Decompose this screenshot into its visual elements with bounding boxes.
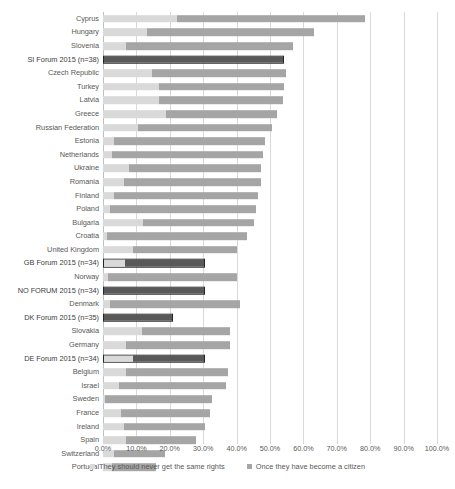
stacked-bar[interactable] xyxy=(103,219,254,227)
bar-segment-never-same-rights[interactable] xyxy=(103,382,119,390)
bar-segment-once-citizen[interactable] xyxy=(124,178,261,186)
stacked-bar[interactable] xyxy=(103,286,205,295)
stacked-bar[interactable] xyxy=(103,205,256,213)
row-label: Slovenia xyxy=(0,42,103,50)
legend-item[interactable]: Once they have become a citizen xyxy=(247,462,365,471)
stacked-bar[interactable] xyxy=(103,42,293,50)
bar-segment-once-citizen[interactable] xyxy=(177,15,365,23)
stacked-bar[interactable] xyxy=(103,233,247,241)
bar-segment-never-same-rights[interactable] xyxy=(103,219,143,227)
bar-segment-never-same-rights[interactable] xyxy=(103,15,177,23)
bar-segment-never-same-rights[interactable] xyxy=(103,151,112,159)
stacked-bar[interactable] xyxy=(103,246,237,254)
chart-row: Turkey xyxy=(0,80,455,94)
bar-segment-never-same-rights[interactable] xyxy=(103,124,138,132)
bar-segment-once-citizen[interactable] xyxy=(114,192,258,200)
bar-segment-never-same-rights[interactable] xyxy=(104,355,133,362)
row-label: Spain xyxy=(0,436,103,444)
bar-segment-never-same-rights[interactable] xyxy=(103,368,126,376)
bar-segment-never-same-rights[interactable] xyxy=(103,69,152,77)
stacked-bar[interactable] xyxy=(103,423,205,431)
stacked-bar[interactable] xyxy=(103,137,265,145)
bar-segment-never-same-rights[interactable] xyxy=(103,436,126,444)
bar-segment-once-citizen[interactable] xyxy=(126,368,228,376)
bar-segment-never-same-rights[interactable] xyxy=(103,328,142,336)
stacked-bar[interactable] xyxy=(103,341,230,349)
stacked-bar[interactable] xyxy=(103,409,210,417)
bar-segment-never-same-rights[interactable] xyxy=(103,300,110,308)
stacked-bar[interactable] xyxy=(103,382,226,390)
bar-segment-once-citizen[interactable] xyxy=(126,42,293,50)
bar-segment-never-same-rights[interactable] xyxy=(103,29,147,37)
bar-segment-once-citizen[interactable] xyxy=(121,409,211,417)
bar-segment-once-citizen[interactable] xyxy=(104,56,283,63)
bar-segment-once-citizen[interactable] xyxy=(142,328,230,336)
stacked-bar[interactable] xyxy=(103,178,261,186)
bar-segment-once-citizen[interactable] xyxy=(129,165,261,173)
bar-segment-once-citizen[interactable] xyxy=(152,69,286,77)
stacked-bar[interactable] xyxy=(103,124,272,132)
bar-segment-once-citizen[interactable] xyxy=(110,205,256,213)
stacked-bar[interactable] xyxy=(103,259,205,268)
bar-segment-once-citizen[interactable] xyxy=(138,124,272,132)
stacked-bar[interactable] xyxy=(103,396,212,404)
stacked-bar[interactable] xyxy=(103,83,284,91)
bar-segment-never-same-rights[interactable] xyxy=(103,246,133,254)
bar-segment-never-same-rights[interactable] xyxy=(103,110,166,118)
bar-segment-once-citizen[interactable] xyxy=(133,355,204,362)
bar-segment-once-citizen[interactable] xyxy=(126,341,230,349)
stacked-bar[interactable] xyxy=(103,110,277,118)
bar-segment-once-citizen[interactable] xyxy=(110,300,240,308)
bar-segment-once-citizen[interactable] xyxy=(107,233,248,241)
bar-segment-once-citizen[interactable] xyxy=(126,436,196,444)
bar-segment-once-citizen[interactable] xyxy=(114,137,265,145)
bar-segment-once-citizen[interactable] xyxy=(124,423,205,431)
bar-segment-once-citizen[interactable] xyxy=(159,97,282,105)
bar-segment-never-same-rights[interactable] xyxy=(103,137,114,145)
bar-segment-once-citizen[interactable] xyxy=(104,287,204,294)
stacked-bar[interactable] xyxy=(103,29,314,37)
bar-segment-once-citizen[interactable] xyxy=(105,396,212,404)
bar-segment-never-same-rights[interactable] xyxy=(103,341,126,349)
stacked-bar[interactable] xyxy=(103,436,196,444)
bar-segment-once-citizen[interactable] xyxy=(112,151,263,159)
bar-segment-once-citizen[interactable] xyxy=(108,273,236,281)
bar-segment-never-same-rights[interactable] xyxy=(103,192,114,200)
row-label: Poland xyxy=(0,205,103,213)
bar-segment-never-same-rights[interactable] xyxy=(104,260,125,267)
stacked-bar[interactable] xyxy=(103,165,261,173)
stacked-bar[interactable] xyxy=(103,273,237,281)
legend-swatch-icon xyxy=(90,464,95,469)
row-label: DE Forum 2015 (n=34) xyxy=(0,355,103,363)
stacked-bar[interactable] xyxy=(103,69,286,77)
bar-segment-once-citizen[interactable] xyxy=(125,260,204,267)
bar-segment-never-same-rights[interactable] xyxy=(103,409,121,417)
bar-segment-once-citizen[interactable] xyxy=(119,382,226,390)
stacked-bar[interactable] xyxy=(103,97,283,105)
bar-segment-never-same-rights[interactable] xyxy=(103,97,159,105)
stacked-bar[interactable] xyxy=(103,192,258,200)
legend-item[interactable]: They should never get the same rights xyxy=(90,462,225,471)
bar-segment-once-citizen[interactable] xyxy=(104,315,172,322)
bar-segment-never-same-rights[interactable] xyxy=(103,178,124,186)
bar-segment-once-citizen[interactable] xyxy=(166,110,277,118)
stacked-bar[interactable] xyxy=(103,15,365,23)
stacked-bar[interactable] xyxy=(103,328,230,336)
stacked-bar[interactable] xyxy=(103,151,263,159)
stacked-bar[interactable] xyxy=(103,300,240,308)
bar-segment-once-citizen[interactable] xyxy=(143,219,254,227)
stacked-bar[interactable] xyxy=(103,354,205,363)
bar-segment-never-same-rights[interactable] xyxy=(103,83,159,91)
bar-segment-once-citizen[interactable] xyxy=(159,83,284,91)
stacked-bar[interactable] xyxy=(103,55,284,64)
chart-row: Sweden xyxy=(0,393,455,407)
bar-segment-never-same-rights[interactable] xyxy=(103,423,124,431)
bar-segment-never-same-rights[interactable] xyxy=(103,165,129,173)
bar-segment-never-same-rights[interactable] xyxy=(103,205,110,213)
bar-segment-never-same-rights[interactable] xyxy=(103,42,126,50)
legend-label: They should never get the same rights xyxy=(99,462,225,471)
stacked-bar[interactable] xyxy=(103,368,228,376)
bar-segment-once-citizen[interactable] xyxy=(133,246,237,254)
bar-segment-once-citizen[interactable] xyxy=(147,29,314,37)
stacked-bar[interactable] xyxy=(103,314,173,323)
